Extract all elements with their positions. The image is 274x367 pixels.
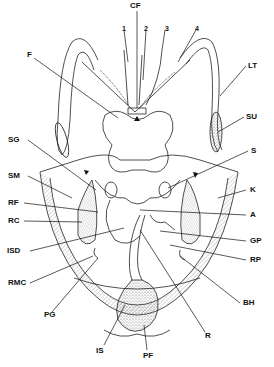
anatomical-diagram (0, 0, 274, 367)
ink-sac (117, 215, 159, 331)
rmc-structure (94, 248, 98, 258)
label-sm: SM (8, 172, 20, 180)
label-1: 1 (122, 25, 126, 32)
label-a: A (250, 211, 256, 219)
label-rp: RP (250, 256, 261, 264)
label-rmc: RMC (8, 279, 26, 287)
direction-arrows (84, 116, 198, 178)
label-isd: ISD (7, 247, 20, 255)
label-s: S (251, 147, 256, 155)
label-4: 4 (195, 25, 199, 32)
label-bh: BH (243, 299, 255, 307)
rectum (150, 215, 175, 230)
label-cf: CF (130, 2, 141, 10)
bh-structure (180, 250, 185, 260)
label-k: K (250, 186, 256, 194)
label-pf: PF (143, 352, 153, 360)
label-sg: SG (8, 136, 20, 144)
label-2: 2 (144, 25, 148, 32)
label-su: SU (246, 113, 257, 121)
label-rf: RF (8, 199, 19, 207)
label-pg: PG (44, 311, 56, 319)
label-f: F (27, 51, 32, 59)
label-r: R (205, 332, 211, 340)
label-rc: RC (8, 217, 20, 225)
label-gp: GP (250, 237, 262, 245)
label-lt: LT (248, 62, 257, 70)
label-3: 3 (165, 25, 169, 32)
label-is: IS (96, 347, 104, 355)
